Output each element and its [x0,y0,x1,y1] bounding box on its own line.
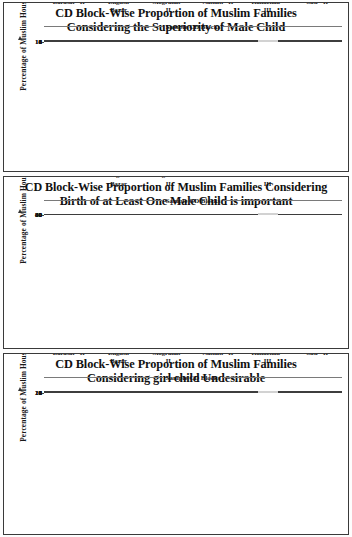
chart-2-y-tickmark-80 [42,215,45,216]
chart-1-x-label: Suti - II [292,2,342,18]
chart-2-y-axis-arrow-head [18,209,22,213]
chart-1-x-label: Nalhati - II [193,2,243,18]
chart-3-y-axis-label-text: Percentage of Muslim Households [18,353,27,442]
chart-2-x-label: Barasat - II [44,176,94,191]
chart-3-y-tickmark-20 [42,393,45,394]
chart-1-x-tick-labels: Barasat - IIEnglishBazarMograhat -IINalh… [44,2,342,18]
chart-3-bar-kaliachak-iii [258,391,278,393]
chart-panel-1: CD Block-Wise Proportion of Muslim Famil… [3,2,349,172]
chart-3-x-label: EnglishBazar [94,353,144,369]
chart-3-x-axis-label-text: Sample CD Blocks [166,374,221,381]
chart-3-x-label: Nalhati - II [193,353,243,369]
chart-1-x-axis-label: Sample CD Blocks [44,20,342,34]
chart-1-x-label: Kaliachak -III [243,2,293,18]
chart-1-y-axis-label-text: Percentage of Muslim Households [18,2,27,91]
rule-right [223,377,342,378]
rule-left [44,377,163,378]
chart-3-x-label: Kaliachak -III [243,353,293,369]
chart-1-x-axis-line [44,40,342,41]
chart-3-x-label: Suti - II [292,353,342,369]
chart-1-x-label: EnglishBazar [94,2,144,18]
chart-panel-3: CD Block-Wise Proportion of Muslim Famil… [3,353,349,535]
chart-1-x-axis-label-text: Sample CD Blocks [166,23,221,30]
chart-1-x-label: Mograhat -II [143,2,193,18]
chart-2-x-label: Kaliachak -III [243,176,293,191]
chart-2-x-axis-label-text: Sample CD Blocks [166,197,221,204]
chart-1-bar-kaliachak-iii [258,40,278,42]
chart-3-x-tick-labels: Barasat - IIEnglishBazarMograhat -IINalh… [44,353,342,369]
chart-1-x-label: Barasat - II [44,2,94,18]
rule-left [44,200,163,201]
chart-1-y-axis-arrow-head [18,36,22,40]
chart-2-x-axis-line [44,214,342,215]
chart-3-x-label: Mograhat -II [143,353,193,369]
chart-2-bar-kaliachak-iii [258,213,278,215]
chart-panel-2: CD Block-Wise Proportion of Muslim Famil… [3,176,349,349]
rule-right [223,26,342,27]
chart-2-x-label: EnglishBazar [94,176,144,191]
chart-2-x-label: Suti - II [292,176,342,191]
rule-left [44,26,163,27]
chart-1-y-tickmark-16 [42,42,45,43]
chart-3-x-axis-line [44,391,342,392]
chart-2-y-axis-label-text: Percentage of Muslim Households [18,176,27,264]
chart-2-x-tick-labels: Barasat - IIEnglishBazarMograhat -IINalh… [44,176,342,191]
chart-2-x-label: Nalhati - II [193,176,243,191]
chart-3-x-label: Barasat - II [44,353,94,369]
chart-3-y-axis-arrow-head [18,387,22,391]
rule-right [223,200,342,201]
chart-2-x-axis-label: Sample CD Blocks [44,193,342,207]
chart-2-x-label: Mograhat -II [143,176,193,191]
chart-3-x-axis-label: Sample CD Blocks [44,371,342,385]
figure-page: CD Block-Wise Proportion of Muslim Famil… [0,0,352,537]
